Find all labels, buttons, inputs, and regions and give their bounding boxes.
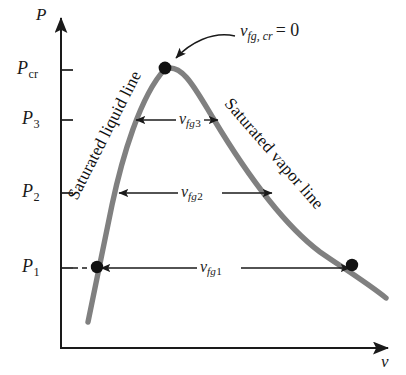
vfg2-label: vfg2 (178, 184, 206, 203)
critical-annotation-sub: fg, cr (248, 29, 273, 43)
vfg3-label: vfg3 (176, 111, 204, 130)
x-axis-label: v (381, 353, 389, 370)
tick-label-p-3-sub: 3 (34, 117, 40, 131)
critical-point-marker (159, 62, 172, 75)
tick-label-p-cr: Pcr (17, 59, 38, 80)
vfg1-label-num: 1 (216, 265, 222, 277)
tick-label-p-cr-sub: cr (29, 67, 39, 81)
sat-vapor-point-marker (346, 259, 358, 271)
vfg3-label-sub: fg (186, 117, 195, 129)
vfg1-label: vfg1 (197, 259, 225, 278)
vfg1-label-sub: fg (207, 265, 216, 277)
tick-label-p-1-sub: 1 (34, 265, 40, 279)
tick-label-p-1: P1 (22, 257, 40, 278)
tick-label-p-1-base: P (22, 256, 33, 276)
y-axis-label: P (36, 6, 46, 23)
critical-point-callout-arrow (176, 35, 235, 58)
vfg3-label-num: 3 (195, 117, 201, 129)
tick-label-p-3-base: P (22, 108, 33, 128)
critical-point-annotation: vfg, cr= 0 (240, 22, 299, 42)
tick-label-p-2-sub: 2 (34, 190, 40, 204)
tick-label-p-2-base: P (22, 181, 33, 201)
pv-saturation-diagram: P v Pcr P3 P2 P1 vfg, cr= 0 vfg3 vfg2 vf… (0, 0, 406, 375)
tick-label-p-cr-base: P (17, 58, 28, 78)
tick-label-p-2: P2 (22, 182, 40, 203)
critical-annotation-eq: = 0 (276, 20, 299, 40)
vfg2-label-sub: fg (188, 190, 197, 202)
sat-liquid-point-marker (91, 261, 103, 273)
critical-annotation-v: v (240, 21, 248, 40)
tick-label-p-3: P3 (22, 109, 40, 130)
vfg2-label-num: 2 (197, 190, 203, 202)
